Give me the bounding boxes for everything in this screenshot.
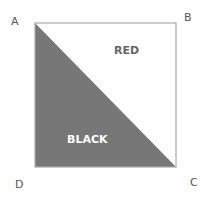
black-region-label: BLACK [67, 133, 108, 146]
square-diagram: RED BLACK A B C D [0, 0, 207, 201]
red-region-label: RED [114, 44, 139, 57]
corner-label-c: C [190, 176, 198, 189]
corner-label-a: A [11, 15, 19, 28]
corner-label-d: D [15, 178, 23, 191]
corner-label-b: B [184, 11, 192, 24]
square-figure: RED BLACK [0, 0, 207, 201]
